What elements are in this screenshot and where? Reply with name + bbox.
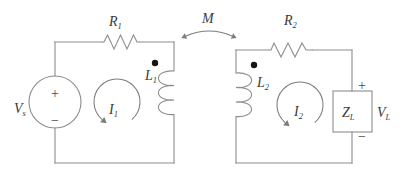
source-label-subscript: s — [23, 108, 27, 118]
polarity-dot-l2 — [251, 62, 257, 68]
mesh-current-i2: I2 — [277, 82, 323, 126]
load-plus-glyph: + — [358, 78, 366, 93]
voltage-source-vs: + − Vs — [14, 76, 81, 128]
mesh-current-i2-label-subscript: 2 — [299, 111, 304, 121]
mutual-inductance-label-symbol: M — [201, 11, 215, 26]
source-label: Vs — [14, 101, 27, 118]
source-minus-glyph: − — [51, 113, 59, 128]
mesh-current-i1-label-subscript: 1 — [114, 109, 118, 119]
load-minus-sign: − — [358, 129, 366, 144]
load-voltage-label: VL — [377, 105, 391, 122]
mesh-current-i1-label: I1 — [108, 102, 118, 119]
load-plus-sign: + — [358, 78, 366, 93]
mutual-coupling-arc — [186, 31, 232, 36]
mutual-inductance-label: M — [201, 11, 215, 26]
resistor-r2-label-symbol: R — [283, 13, 293, 28]
inductor-l2-label: L2 — [256, 75, 270, 92]
mutual-coupling-m: M — [181, 11, 236, 39]
polarity-dot-l1 — [152, 60, 158, 66]
resistor-r1: R1 — [102, 14, 140, 49]
resistor-r2-label: R2 — [283, 13, 298, 30]
resistor-r1-label: R1 — [108, 14, 122, 31]
resistor-r1-zigzag — [102, 35, 140, 49]
inductor-l2: L2 — [236, 62, 270, 117]
inductor-l1-windings — [158, 71, 174, 115]
inductor-l1-label: L1 — [144, 68, 157, 85]
resistor-r2: R2 — [268, 13, 313, 57]
resistor-r1-label-symbol: R — [108, 14, 118, 29]
mesh-current-i1: I1 — [94, 79, 140, 123]
resistor-r2-label-subscript: 2 — [293, 20, 298, 30]
source-minus-sign: − — [51, 113, 59, 128]
source-plus-glyph: + — [51, 86, 59, 101]
inductor-l1-label-symbol: L — [144, 68, 153, 83]
circuit-diagram-canvas: + − Vs R1 L1 I1 — [0, 0, 405, 180]
inductor-l1-label-subscript: 1 — [153, 75, 157, 85]
load-impedance-label: ZL — [342, 105, 355, 122]
inductor-l2-label-subscript: 2 — [265, 82, 270, 92]
source-plus-sign: + — [51, 86, 59, 101]
inductor-l2-windings — [236, 73, 252, 117]
load-impedance-label-subscript: L — [349, 112, 355, 122]
load-voltage-label-subscript: L — [385, 112, 391, 122]
resistor-r1-label-subscript: 1 — [118, 21, 122, 31]
inductor-l2-label-symbol: L — [256, 75, 265, 90]
load-impedance-zl: ZL + − VL — [333, 78, 391, 144]
resistor-r2-zigzag — [268, 43, 313, 57]
load-minus-glyph: − — [358, 129, 366, 144]
inductor-l1: L1 — [144, 60, 174, 115]
load-impedance-label-symbol: Z — [342, 105, 350, 120]
mesh-current-i2-label: I2 — [293, 104, 304, 121]
